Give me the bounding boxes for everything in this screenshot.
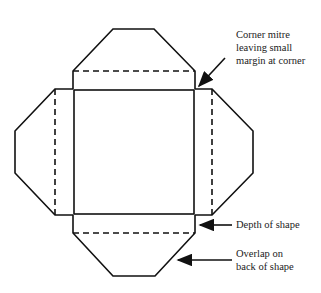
right-flap — [195, 89, 253, 215]
corner-mitre-label: Corner mitre leaving small margin at cor… — [236, 28, 305, 67]
depth-label: Depth of shape — [236, 218, 300, 231]
corner-mitre-arrow — [199, 58, 225, 86]
overlap-label: Overlap on back of shape — [236, 247, 294, 273]
left-flap — [15, 89, 73, 215]
top-flap — [73, 29, 195, 89]
bottom-flap — [73, 215, 195, 276]
base-square — [74, 90, 194, 214]
